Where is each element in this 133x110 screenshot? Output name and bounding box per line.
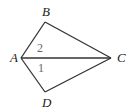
vertex-label-a: A [9,50,18,65]
angle-label-1: 1 [38,61,44,75]
segment-bc [45,22,111,58]
vertex-label-d: D [41,95,52,110]
geometry-figure: ABCD21 [0,0,133,110]
edges [21,22,111,92]
figure-canvas: ABCD21 [0,0,133,110]
angle-label-2: 2 [37,41,43,55]
vertex-label-b: B [42,4,50,19]
vertex-label-c: C [117,50,126,65]
segment-dc [45,58,111,92]
